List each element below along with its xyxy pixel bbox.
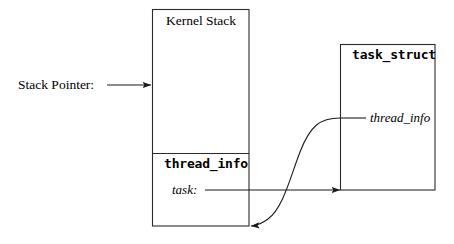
thread-info-back-pointer-curve — [251, 118, 340, 226]
kernel-stack-title: Kernel Stack — [166, 14, 236, 28]
task-field-label: task: — [172, 183, 197, 196]
task-struct-title: task_struct — [352, 48, 436, 61]
diagram-canvas: Stack Pointer: Kernel Stack thread_info … — [0, 0, 454, 244]
kernel-stack-box — [153, 10, 250, 227]
thread-info-pointer-label: thread_info — [370, 111, 430, 124]
thread-info-section-title: thread_info — [164, 157, 248, 170]
stack-pointer-label: Stack Pointer: — [18, 78, 94, 92]
